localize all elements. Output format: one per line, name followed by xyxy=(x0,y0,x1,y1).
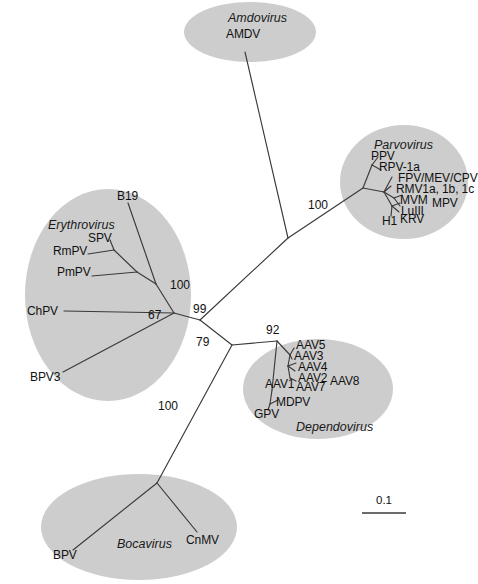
scale-bar-label: 0.1 xyxy=(376,495,392,507)
genus-label-erythrovirus: Erythrovirus xyxy=(48,219,115,232)
taxon-label-b19: B19 xyxy=(117,190,138,202)
taxon-label-spv: SPV xyxy=(88,232,112,244)
bootstrap-value-backbone: 79 xyxy=(196,336,209,348)
taxon-label-rmpv: RmPV xyxy=(53,245,87,257)
genus-ellipse-bocavirus xyxy=(41,474,237,580)
taxon-label-mpv: MPV xyxy=(432,197,458,209)
bootstrap-value-bocavirus: 100 xyxy=(158,400,178,412)
branch-amdv xyxy=(245,52,288,238)
branch-99-to-upper-junction xyxy=(200,238,288,320)
taxon-label-krv: KRV xyxy=(400,213,424,225)
taxon-label-pmpv: PmPV xyxy=(57,266,91,278)
taxon-label-bpv3: BPV3 xyxy=(30,371,60,383)
branch-backbone-79-92 xyxy=(232,341,277,345)
taxon-label-aav7: AAV7 xyxy=(296,381,325,393)
taxon-label-h1: H1 xyxy=(382,215,397,227)
bootstrap-value-parvovirus: 100 xyxy=(308,199,328,211)
genus-label-amdovirus: Amdovirus xyxy=(228,12,287,25)
genus-label-dependovirus: Dependovirus xyxy=(296,421,373,434)
bootstrap-value-erythrovirus-inner: 100 xyxy=(170,279,190,291)
taxon-label-gpv: GPV xyxy=(254,408,279,420)
taxon-label-bpv: BPV xyxy=(53,549,77,561)
taxon-label-chpv: ChPV xyxy=(27,305,58,317)
genus-label-bocavirus: Bocavirus xyxy=(117,538,172,551)
taxon-label-mdpv: MDPV xyxy=(276,396,310,408)
bootstrap-value-erythrovirus-join: 99 xyxy=(193,303,206,315)
taxon-label-aav8: AAV8 xyxy=(330,375,359,387)
taxon-label-cnmv: CnMV xyxy=(186,534,219,546)
taxon-label-amdv: AMDV xyxy=(226,28,260,40)
taxon-label-aav1: AAV1 xyxy=(265,378,294,390)
genus-ellipse-group xyxy=(25,2,468,580)
bootstrap-value-erythrovirus-node: 67 xyxy=(148,309,161,321)
bootstrap-value-dependovirus: 92 xyxy=(266,324,279,336)
